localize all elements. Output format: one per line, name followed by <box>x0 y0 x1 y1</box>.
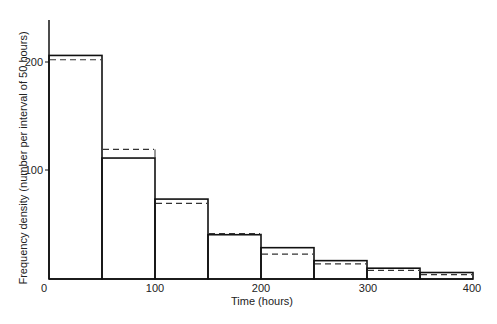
x-tick-label-200: 200 <box>252 282 270 294</box>
x-tick-label-100: 100 <box>146 282 164 294</box>
histogram-chart: 100 200 0 100 200 300 400 Time (hours) F… <box>0 0 497 324</box>
histogram-bar <box>420 273 473 279</box>
histogram-bar <box>102 158 155 279</box>
x-tick-label-400: 400 <box>463 282 481 294</box>
x-tick-label-0: 0 <box>41 282 47 294</box>
histogram-bar <box>155 199 208 279</box>
histogram-bar <box>49 55 102 279</box>
x-axis-title: Time (hours) <box>231 295 293 307</box>
x-tick-label-300: 300 <box>359 282 377 294</box>
y-axis-title: Frequency density (number per interval o… <box>17 31 29 284</box>
histogram-bar <box>261 248 314 279</box>
solid-bars <box>49 55 473 279</box>
histogram-bar <box>208 235 261 279</box>
